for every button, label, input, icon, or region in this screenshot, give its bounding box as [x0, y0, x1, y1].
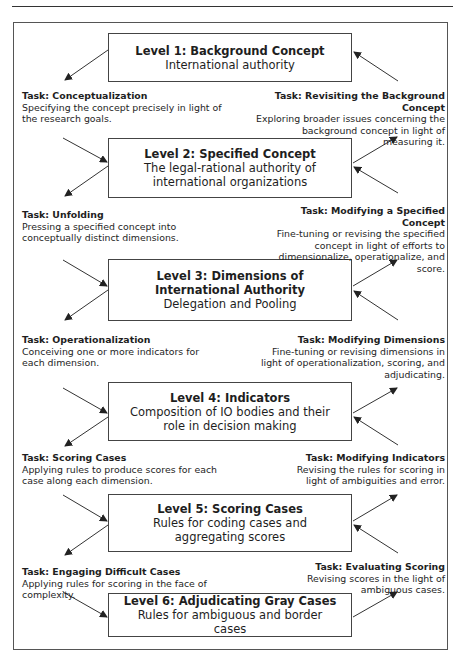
task-evaluating-scoring: Task: Evaluating Scoring Revising scores… — [275, 561, 445, 596]
arrow-out-right-5 — [353, 495, 397, 521]
arrow-in-left-4 — [63, 388, 107, 413]
task-scoring-cases: Task: Scoring Cases Applying rules to pr… — [22, 452, 222, 487]
task-description: Specifying the concept precisely in ligh… — [22, 102, 222, 125]
arrow-out-right-4 — [353, 388, 397, 413]
task-title: Task: Unfolding — [22, 209, 222, 221]
level-1-box: Level 1: Background Concept Internationa… — [108, 33, 352, 82]
task-title: Task: Modifying a Specified Concept — [265, 205, 445, 228]
task-title: Task: Conceptualization — [22, 90, 222, 102]
task-unfolding: Task: Unfolding Pressing a specified con… — [22, 209, 222, 244]
arrow-up-right-1 — [354, 52, 398, 81]
level-description: Composition of IO bodies and their role … — [109, 405, 351, 433]
arrow-down-left-5 — [65, 525, 108, 555]
level-4-box: Level 4: Indicators Composition of IO bo… — [108, 382, 352, 441]
level-title: Level 5: Scoring Cases — [143, 502, 317, 516]
task-title: Task: Modifying Indicators — [275, 452, 445, 464]
task-modifying-specified-concept: Task: Modifying a Specified Concept Fine… — [265, 205, 445, 274]
task-title: Task: Evaluating Scoring — [275, 561, 445, 573]
level-description: Rules for coding cases and aggregating s… — [109, 516, 351, 544]
level-title: Level 1: Background Concept — [121, 44, 338, 58]
task-description: Applying rules to produce scores for eac… — [22, 464, 222, 487]
arrow-in-left-3 — [63, 260, 107, 286]
level-title: Level 2: Specified Concept — [130, 147, 329, 161]
task-operationalization: Task: Operationalization Conceiving one … — [22, 334, 222, 369]
task-description: Revising scores in the light of ambiguou… — [275, 573, 445, 596]
task-conceptualization: Task: Conceptualization Specifying the c… — [22, 90, 222, 125]
task-description: Fine-tuning or revising dimensions in li… — [260, 346, 445, 381]
level-5-box: Level 5: Scoring Cases Rules for coding … — [108, 494, 352, 552]
level-description: International authority — [151, 58, 308, 72]
task-description: Exploring broader issues concerning the … — [255, 113, 445, 148]
arrow-up-right-2 — [354, 167, 398, 193]
arrow-down-left-1 — [65, 50, 108, 80]
arrow-down-left-3 — [65, 290, 108, 320]
task-title: Task: Operationalization — [22, 334, 222, 346]
arrow-down-left-4 — [65, 417, 108, 446]
task-title: Task: Modifying Dimensions — [260, 334, 445, 346]
level-description: Delegation and Pooling — [149, 297, 310, 311]
arrow-up-right-5 — [354, 525, 398, 553]
task-title: Task: Scoring Cases — [22, 452, 222, 464]
task-description: Fine-tuning or revising the specified co… — [265, 228, 445, 274]
level-description: The legal-rational authority of internat… — [109, 161, 351, 189]
arrow-in-left-5 — [63, 495, 107, 521]
task-description: Revising the rules for scoring in light … — [275, 464, 445, 487]
task-description: Pressing a specified concept into concep… — [22, 221, 222, 244]
arrow-up-right-3 — [354, 291, 398, 320]
arrow-out-right-6 — [353, 592, 397, 617]
arrow-in-left-2 — [63, 138, 107, 162]
task-modifying-indicators: Task: Modifying Indicators Revising the … — [275, 452, 445, 487]
task-revisiting-background-concept: Task: Revisiting the Background Concept … — [255, 90, 445, 148]
task-title: Task: Engaging Difficult Cases — [22, 566, 262, 578]
level-title: Level 4: Indicators — [156, 391, 304, 405]
task-description: Conceiving one or more indicators for ea… — [22, 346, 222, 369]
task-description: Applying rules for scoring in the face o… — [22, 578, 262, 601]
task-modifying-dimensions: Task: Modifying Dimensions Fine-tuning o… — [260, 334, 445, 380]
task-engaging-difficult-cases: Task: Engaging Difficult Cases Applying … — [22, 566, 262, 601]
arrow-down-left-2 — [65, 166, 108, 196]
arrow-up-right-4 — [354, 417, 398, 445]
task-title: Task: Revisiting the Background Concept — [255, 90, 445, 113]
level-description: Rules for ambiguous and border cases — [109, 608, 351, 636]
